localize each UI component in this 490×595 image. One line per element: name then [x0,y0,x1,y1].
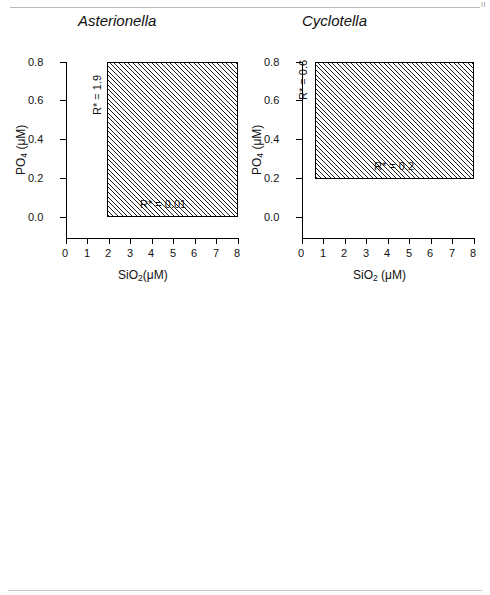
right-ytick-0.2 [296,178,302,179]
left-x-axis-title: SiO2(μM) [118,268,168,283]
left-xtick-8 [238,238,239,244]
figure-canvas: II Asterionella 0.8 0.6 0.4 0.2 0.0 0 1 … [0,0,490,595]
right-xtick-1 [323,238,324,244]
panel-cyclotella: 0.8 0.6 0.4 0.2 0.0 0 1 2 3 4 5 6 7 8 PO… [245,0,490,295]
right-xlabel-7: 7 [449,247,455,259]
left-growth-region [107,62,238,217]
right-ylabel-0.8: 0.8 [264,56,279,68]
left-ylabel-0.4: 0.4 [28,133,43,145]
left-xlabel-4: 4 [148,247,154,259]
left-ylabel-0.2: 0.2 [28,172,43,184]
left-xlabel-1: 1 [84,247,90,259]
left-xtick-2 [109,238,110,244]
panel-competition-outcomes: 5 4 3 2 1 0 0 20 40 60 80 100 PO4 (μM) S… [0,295,490,595]
right-ylabel-0.4: 0.4 [264,133,279,145]
left-ytick-0.0 [60,217,66,218]
right-rstar-vertical: R* = 0.6 [297,60,309,100]
right-xtick-0 [302,238,303,244]
left-xlabel-2: 2 [105,247,111,259]
left-xlabel-8: 8 [234,247,240,259]
right-ytick-0.4 [296,139,302,140]
right-xtick-7 [452,238,453,244]
left-ytick-0.4 [60,139,66,140]
left-xtick-1 [87,238,88,244]
bottom-divider-rule [8,590,482,591]
right-xlabel-3: 3 [363,247,369,259]
right-ylabel-0.0: 0.0 [264,211,279,223]
left-xlabel-6: 6 [191,247,197,259]
left-xtick-4 [152,238,153,244]
right-x-axis-title: SiO2 (μM) [353,268,406,283]
left-ytick-0.6 [60,100,66,101]
left-xlabel-7: 7 [213,247,219,259]
left-xtick-7 [216,238,217,244]
left-y-axis [66,62,67,238]
right-ytick-0.6 [296,100,302,101]
right-xlabel-4: 4 [384,247,390,259]
left-ytick-0.2 [60,178,66,179]
right-ylabel-0.6: 0.6 [264,94,279,106]
left-ylabel-0.8: 0.8 [28,56,43,68]
right-xlabel-1: 1 [320,247,326,259]
right-rstar-horizontal: R* = 0.2 [374,160,414,172]
right-xlabel-2: 2 [341,247,347,259]
left-xtick-3 [130,238,131,244]
panel-asterionella: 0.8 0.6 0.4 0.2 0.0 0 1 2 3 4 5 6 7 8 PO… [0,0,245,295]
right-xlabel-8: 8 [470,247,476,259]
left-ylabel-0.6: 0.6 [28,94,43,106]
left-y-axis-title: PO4 (μM) [14,125,29,175]
left-xtick-6 [195,238,196,244]
left-xtick-5 [173,238,174,244]
left-xtick-0 [66,238,67,244]
right-ylabel-0.2: 0.2 [264,172,279,184]
right-xlabel-6: 6 [427,247,433,259]
right-xlabel-5: 5 [406,247,412,259]
right-xtick-6 [431,238,432,244]
left-rstar-horizontal: R* = 0.01 [140,198,186,210]
left-ytick-0.8 [60,62,66,63]
left-xlabel-5: 5 [170,247,176,259]
right-xtick-4 [388,238,389,244]
left-xlabel-3: 3 [127,247,133,259]
right-xtick-8 [474,238,475,244]
right-ytick-0.0 [296,217,302,218]
left-xlabel-0: 0 [62,247,68,259]
right-xtick-2 [345,238,346,244]
right-y-axis-title: PO4 (μM) [250,125,265,175]
right-xtick-5 [409,238,410,244]
left-rstar-vertical: R* = 1.9 [91,75,103,115]
right-xtick-3 [366,238,367,244]
left-ylabel-0.0: 0.0 [28,211,43,223]
right-xlabel-0: 0 [298,247,304,259]
